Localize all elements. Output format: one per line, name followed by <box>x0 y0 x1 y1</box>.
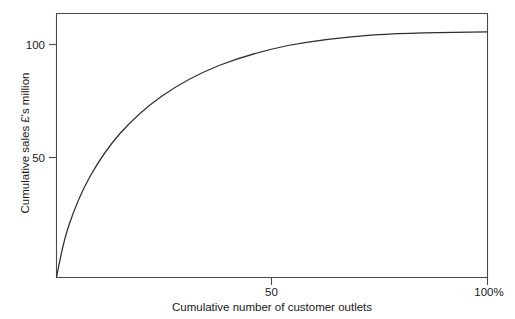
chart-container: 100 50 50 100% Cumulative number of cust… <box>0 0 515 319</box>
x-axis-title: Cumulative number of customer outlets <box>172 301 372 313</box>
y-axis-tick-label-50: 50 <box>32 152 45 164</box>
y-axis-tick-label-100: 100 <box>26 39 45 51</box>
plot-frame <box>57 14 488 278</box>
x-axis-tick-label-100: 100% <box>474 286 503 298</box>
y-axis-title: Cumulative sales £'s million <box>19 73 31 214</box>
pareto-curve-chart: 100 50 50 100% Cumulative number of cust… <box>0 0 515 319</box>
cumulative-sales-curve <box>57 32 488 278</box>
x-axis-tick-label-50: 50 <box>265 286 278 298</box>
